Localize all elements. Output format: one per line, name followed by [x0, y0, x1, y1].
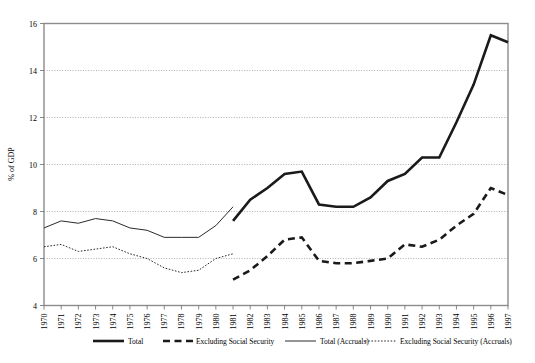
x-tick-label-1970: 1970: [40, 314, 49, 330]
data-series: [44, 35, 508, 279]
x-tick-label-1995: 1995: [470, 314, 479, 330]
y-axis-title: % of GDP: [7, 147, 16, 181]
y-tick-label-4: 4: [33, 302, 37, 311]
x-tick-label-1997: 1997: [504, 314, 513, 330]
x-tick-label-1993: 1993: [435, 314, 444, 330]
legend-label-3: Excluding Social Security (Accruals): [400, 337, 512, 346]
x-tick-label-1972: 1972: [74, 314, 83, 330]
legend-label-1: Excluding Social Security: [196, 337, 275, 346]
x-tick-label-1980: 1980: [212, 314, 221, 330]
x-tick-label-1982: 1982: [246, 314, 255, 330]
x-tick-label-1991: 1991: [401, 314, 410, 330]
chart-legend: TotalExcluding Social SecurityTotal (Acc…: [93, 337, 512, 346]
x-tick-label-1987: 1987: [332, 314, 341, 330]
x-tick-label-1983: 1983: [263, 314, 272, 330]
x-tick-label-1971: 1971: [57, 314, 66, 330]
y-tick-label-12: 12: [29, 114, 37, 123]
y-tick-label-6: 6: [33, 255, 37, 264]
x-tick-label-1984: 1984: [281, 314, 290, 330]
x-tick-label-1974: 1974: [109, 314, 118, 330]
x-tick-label-1977: 1977: [160, 314, 169, 330]
y-tick-labels: 46810121416: [29, 20, 37, 311]
x-tick-label-1989: 1989: [367, 314, 376, 330]
x-tick-label-1992: 1992: [418, 314, 427, 330]
x-tick-label-1975: 1975: [126, 314, 135, 330]
legend-label-2: Total (Accruals): [320, 337, 369, 346]
y-tick-label-10: 10: [29, 161, 37, 170]
series-line-1: [233, 188, 508, 280]
y-tick-label-16: 16: [29, 20, 37, 29]
y-axis-label: % of GDP: [7, 147, 16, 181]
x-tick-label-1994: 1994: [452, 314, 461, 330]
x-tick-label-1979: 1979: [195, 314, 204, 330]
legend-label-0: Total: [128, 337, 143, 346]
x-tick-label-1981: 1981: [229, 314, 238, 330]
chart-svg: 46810121416 1970197119721973197419751976…: [0, 0, 535, 363]
x-tick-label-1988: 1988: [349, 314, 358, 330]
x-tick-label-1990: 1990: [384, 314, 393, 330]
x-tick-label-1985: 1985: [298, 314, 307, 330]
x-tick-label-1973: 1973: [92, 314, 101, 330]
x-tick-label-1976: 1976: [143, 314, 152, 330]
chart-container: 46810121416 1970197119721973197419751976…: [0, 0, 535, 363]
y-tick-label-8: 8: [33, 208, 37, 217]
x-tick-labels: 1970197119721973197419751976197719781979…: [40, 314, 513, 330]
x-tick-label-1996: 1996: [487, 314, 496, 330]
gridlines: [44, 71, 508, 259]
series-line-0: [233, 35, 508, 221]
y-tick-label-14: 14: [29, 67, 37, 76]
x-tick-label-1986: 1986: [315, 314, 324, 330]
x-tick-label-1978: 1978: [177, 314, 186, 330]
